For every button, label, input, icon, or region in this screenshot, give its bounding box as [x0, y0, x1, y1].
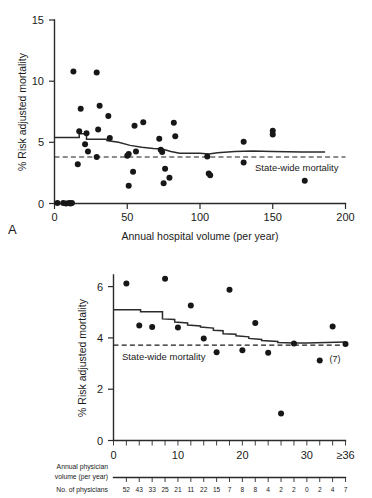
data-point	[97, 103, 103, 109]
data-point	[149, 324, 155, 330]
panel-a-xtick-200: 200	[336, 211, 354, 223]
panel-a-scatter-points	[54, 68, 307, 206]
data-point	[95, 126, 101, 132]
physician-count-value: 25	[161, 486, 169, 493]
panel-b-statewide-annotation: State-wide mortality	[122, 351, 206, 362]
data-point	[214, 349, 220, 355]
data-point	[207, 172, 213, 178]
panel-a: 0 5 10 15 0 50 100 150 200 Annual	[0, 0, 372, 250]
panel-b-trend-line	[114, 310, 346, 343]
panel-a-xtick-0: 0	[51, 211, 57, 223]
panel-b-ytick-4: 4	[97, 332, 103, 344]
data-point	[159, 149, 165, 155]
panel-b-xtick-30: 30	[301, 449, 313, 461]
panel-b-counts-row-label: No. of physicians	[56, 486, 108, 494]
physician-count-value: 52	[123, 486, 131, 493]
data-point	[162, 276, 168, 282]
data-point	[172, 133, 178, 139]
panel-b-x-axis-title-line1: Annual physician	[57, 463, 109, 471]
panel-a-xtick-50: 50	[121, 211, 133, 223]
data-point	[132, 123, 138, 129]
physician-count-value: 4	[266, 486, 270, 493]
data-point	[252, 320, 258, 326]
data-point	[94, 70, 100, 76]
panel-b-xtick-20: 20	[236, 449, 248, 461]
panel-b-ytick-6: 6	[97, 281, 103, 293]
data-point	[175, 325, 181, 331]
physician-count-value: 8	[241, 486, 245, 493]
panel-a-x-ticks	[55, 204, 346, 210]
panel-b-x-ticks	[114, 441, 346, 446]
panel-b-counts-labels: 52433325211122157884220247	[123, 486, 348, 493]
data-point	[204, 153, 210, 159]
panel-a-trend-line	[55, 134, 326, 154]
data-point	[69, 200, 75, 206]
data-point	[94, 154, 100, 160]
panel-b-y-tick-labels: 0 2 4 6	[97, 281, 103, 447]
data-point	[156, 136, 162, 142]
data-point	[343, 341, 349, 347]
panel-a-xtick-150: 150	[264, 211, 282, 223]
data-point	[201, 335, 207, 341]
panel-b-scatter-points	[123, 276, 348, 417]
physician-count-value: 2	[318, 486, 322, 493]
physician-count-value: 11	[187, 486, 194, 493]
panel-b-xtick-10: 10	[172, 449, 184, 461]
panel-b-ytick-0: 0	[97, 435, 103, 447]
data-point	[241, 139, 247, 145]
panel-b-y-ticks	[108, 287, 114, 441]
data-point	[136, 323, 142, 329]
panel-a-xtick-100: 100	[191, 211, 209, 223]
physician-count-value: 33	[148, 486, 156, 493]
panel-b-xtick-0: 0	[110, 449, 116, 461]
panel-b-y-axis-title: % Risk adjusted mortality	[76, 298, 88, 417]
data-point	[265, 350, 271, 356]
panel-b-x-tick-labels: 0 10 20 30 ≥36	[110, 449, 354, 461]
panel-a-y-axis-title: % Risk adjusted mortality	[16, 52, 28, 171]
data-point	[105, 113, 111, 119]
physician-count-value: 2	[279, 486, 283, 493]
data-point	[133, 149, 139, 155]
data-point	[161, 180, 167, 186]
data-point	[126, 151, 132, 157]
data-point	[171, 120, 177, 126]
physician-count-value: 21	[174, 486, 182, 493]
data-point	[78, 106, 84, 112]
data-point	[166, 175, 172, 181]
panel-a-x-tick-labels: 0 50 100 150 200	[51, 211, 354, 223]
panel-b-point-note: (7)	[330, 354, 341, 364]
panel-b-plot: 0 2 4 6 0 10 20 30 ≥36 % Risk adjusted m…	[0, 250, 372, 498]
data-point	[84, 130, 90, 136]
data-point	[162, 166, 168, 172]
physician-count-value: 15	[213, 486, 221, 493]
data-point	[75, 161, 81, 167]
data-point	[278, 411, 284, 417]
panel-a-x-axis-title: Annual hospital volume (per year)	[122, 230, 279, 242]
panel-a-plot: 0 5 10 15 0 50 100 150 200 Annual	[0, 0, 372, 250]
panel-b-ytick-2: 2	[97, 383, 103, 395]
data-point	[130, 169, 136, 175]
data-point	[85, 149, 91, 155]
physician-count-value: 4	[331, 486, 335, 493]
panel-a-statewide-annotation: State-wide mortality	[255, 162, 339, 173]
physician-count-value: 7	[228, 486, 232, 493]
data-point	[140, 119, 146, 125]
data-point	[291, 341, 297, 347]
physician-count-value: 22	[200, 486, 208, 493]
data-point	[302, 178, 308, 184]
data-point	[123, 280, 129, 286]
panel-a-axes	[55, 20, 346, 204]
data-point	[330, 324, 336, 330]
figure-container: 0 5 10 15 0 50 100 150 200 Annual	[0, 0, 372, 498]
data-point	[241, 160, 247, 166]
data-point	[227, 287, 233, 293]
physician-count-value: 43	[136, 486, 144, 493]
physician-count-value: 0	[305, 486, 309, 493]
panel-a-ytick-0: 0	[38, 198, 44, 210]
panel-a-y-ticks	[49, 20, 55, 204]
panel-a-ytick-15: 15	[32, 14, 44, 26]
data-point	[239, 347, 245, 353]
data-point	[188, 303, 194, 309]
physician-count-value: 8	[253, 486, 257, 493]
data-point	[270, 128, 276, 134]
